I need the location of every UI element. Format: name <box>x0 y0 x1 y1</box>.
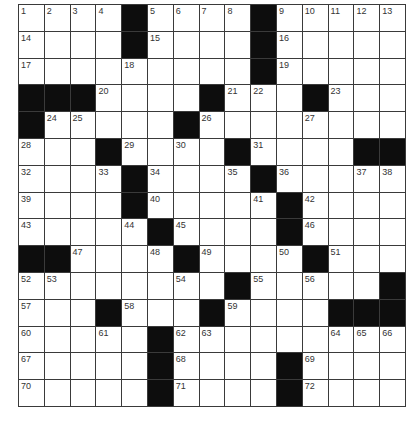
grid-cell[interactable]: 46 <box>303 219 328 245</box>
grid-cell[interactable] <box>354 246 379 272</box>
grid-cell[interactable] <box>122 246 147 272</box>
grid-cell[interactable] <box>96 273 121 299</box>
grid-cell[interactable] <box>200 59 225 85</box>
grid-cell[interactable]: 38 <box>380 166 405 192</box>
grid-cell[interactable] <box>45 300 70 326</box>
grid-cell[interactable] <box>225 193 250 219</box>
grid-cell[interactable] <box>71 300 96 326</box>
grid-cell[interactable]: 44 <box>122 219 147 245</box>
grid-cell[interactable]: 47 <box>71 246 96 272</box>
grid-cell[interactable]: 22 <box>251 85 276 111</box>
grid-cell[interactable]: 48 <box>148 246 173 272</box>
grid-cell[interactable] <box>122 273 147 299</box>
grid-cell[interactable]: 13 <box>380 5 405 31</box>
grid-cell[interactable] <box>45 32 70 58</box>
grid-cell[interactable]: 23 <box>329 85 354 111</box>
grid-cell[interactable] <box>148 85 173 111</box>
grid-cell[interactable] <box>251 112 276 138</box>
grid-cell[interactable] <box>200 166 225 192</box>
grid-cell[interactable] <box>71 32 96 58</box>
grid-cell[interactable] <box>329 219 354 245</box>
grid-cell[interactable] <box>354 85 379 111</box>
grid-cell[interactable] <box>45 193 70 219</box>
grid-cell[interactable] <box>303 59 328 85</box>
grid-cell[interactable] <box>71 327 96 353</box>
grid-cell[interactable]: 30 <box>174 139 199 165</box>
grid-cell[interactable] <box>225 380 250 406</box>
grid-cell[interactable]: 71 <box>174 380 199 406</box>
grid-cell[interactable] <box>303 327 328 353</box>
grid-cell[interactable] <box>200 193 225 219</box>
grid-cell[interactable]: 67 <box>19 353 44 379</box>
grid-cell[interactable] <box>122 85 147 111</box>
grid-cell[interactable]: 15 <box>148 32 173 58</box>
grid-cell[interactable] <box>45 380 70 406</box>
grid-cell[interactable] <box>96 59 121 85</box>
grid-cell[interactable] <box>71 273 96 299</box>
grid-cell[interactable]: 45 <box>174 219 199 245</box>
grid-cell[interactable] <box>45 353 70 379</box>
grid-cell[interactable] <box>148 112 173 138</box>
grid-cell[interactable] <box>96 219 121 245</box>
grid-cell[interactable] <box>380 219 405 245</box>
grid-cell[interactable]: 27 <box>303 112 328 138</box>
grid-cell[interactable] <box>329 166 354 192</box>
grid-cell[interactable] <box>200 273 225 299</box>
grid-cell[interactable]: 20 <box>96 85 121 111</box>
grid-cell[interactable]: 12 <box>354 5 379 31</box>
grid-cell[interactable] <box>225 112 250 138</box>
grid-cell[interactable]: 3 <box>71 5 96 31</box>
grid-cell[interactable] <box>200 32 225 58</box>
grid-cell[interactable]: 42 <box>303 193 328 219</box>
grid-cell[interactable]: 5 <box>148 5 173 31</box>
grid-cell[interactable]: 18 <box>122 59 147 85</box>
grid-cell[interactable] <box>354 32 379 58</box>
grid-cell[interactable] <box>354 112 379 138</box>
grid-cell[interactable]: 1 <box>19 5 44 31</box>
grid-cell[interactable] <box>174 166 199 192</box>
grid-cell[interactable]: 8 <box>225 5 250 31</box>
grid-cell[interactable] <box>329 32 354 58</box>
grid-cell[interactable]: 24 <box>45 112 70 138</box>
grid-cell[interactable]: 34 <box>148 166 173 192</box>
grid-cell[interactable]: 2 <box>45 5 70 31</box>
grid-cell[interactable] <box>122 380 147 406</box>
grid-cell[interactable]: 25 <box>71 112 96 138</box>
grid-cell[interactable]: 52 <box>19 273 44 299</box>
grid-cell[interactable] <box>380 353 405 379</box>
grid-cell[interactable] <box>200 139 225 165</box>
grid-cell[interactable] <box>354 273 379 299</box>
grid-cell[interactable] <box>380 193 405 219</box>
grid-cell[interactable] <box>380 380 405 406</box>
grid-cell[interactable]: 10 <box>303 5 328 31</box>
grid-cell[interactable]: 32 <box>19 166 44 192</box>
grid-cell[interactable] <box>71 59 96 85</box>
grid-cell[interactable] <box>354 353 379 379</box>
grid-cell[interactable] <box>354 219 379 245</box>
grid-cell[interactable]: 6 <box>174 5 199 31</box>
grid-cell[interactable]: 4 <box>96 5 121 31</box>
grid-cell[interactable]: 58 <box>122 300 147 326</box>
grid-cell[interactable] <box>45 139 70 165</box>
grid-cell[interactable]: 72 <box>303 380 328 406</box>
grid-cell[interactable] <box>174 85 199 111</box>
grid-cell[interactable] <box>251 380 276 406</box>
grid-cell[interactable]: 19 <box>277 59 302 85</box>
grid-cell[interactable] <box>148 139 173 165</box>
grid-cell[interactable] <box>277 85 302 111</box>
grid-cell[interactable] <box>225 59 250 85</box>
grid-cell[interactable] <box>71 166 96 192</box>
grid-cell[interactable] <box>329 193 354 219</box>
grid-cell[interactable] <box>96 380 121 406</box>
grid-cell[interactable]: 16 <box>277 32 302 58</box>
grid-cell[interactable] <box>96 32 121 58</box>
grid-cell[interactable] <box>96 193 121 219</box>
grid-cell[interactable] <box>329 139 354 165</box>
grid-cell[interactable] <box>148 300 173 326</box>
grid-cell[interactable] <box>354 380 379 406</box>
grid-cell[interactable] <box>96 353 121 379</box>
grid-cell[interactable] <box>251 300 276 326</box>
grid-cell[interactable] <box>251 353 276 379</box>
grid-cell[interactable] <box>329 353 354 379</box>
grid-cell[interactable]: 43 <box>19 219 44 245</box>
